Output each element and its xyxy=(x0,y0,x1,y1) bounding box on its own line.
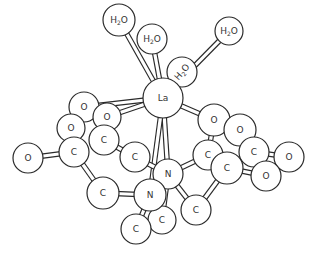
atom-label: C xyxy=(205,150,211,160)
atom-c-c1: C xyxy=(89,125,119,155)
atom-label: C xyxy=(101,135,107,145)
atom-label: C xyxy=(133,224,139,234)
atom-label: C xyxy=(193,205,199,215)
atom-label: C xyxy=(132,152,138,162)
atom-label: La xyxy=(158,93,169,103)
atom-label: C xyxy=(251,147,257,157)
atom-label: C xyxy=(71,147,77,157)
atom-label: C xyxy=(224,163,230,173)
atom-h2o-w3: H2O xyxy=(215,17,243,45)
atom-label: O xyxy=(210,115,217,125)
atom-label: O xyxy=(24,153,31,163)
atom-c-c2: C xyxy=(59,137,89,167)
atom-h2o-w2: H2O xyxy=(137,24,167,54)
atom-h2o-w1: H2O xyxy=(103,4,135,36)
atom-c-c3: C xyxy=(120,142,150,172)
atom-c-c8: C xyxy=(181,195,211,225)
atom-label: N xyxy=(165,169,172,179)
atom-label: O xyxy=(80,102,87,112)
atom-label: N xyxy=(147,190,154,200)
atom-label: O xyxy=(103,112,110,122)
atom-o-o8: O xyxy=(251,161,281,191)
atom-label: C xyxy=(159,215,165,225)
atom-n-n2: N xyxy=(134,179,166,211)
atom-label: C xyxy=(100,188,106,198)
atom-c-c4: C xyxy=(87,177,119,209)
atom-label: O xyxy=(236,125,243,135)
atom-o-o4: O xyxy=(13,143,43,173)
atom-label: O xyxy=(285,152,292,162)
atom-label: O xyxy=(67,123,74,133)
atom-la-la: La xyxy=(143,78,183,118)
atom-c-c10: C xyxy=(121,214,151,244)
atom-label: O xyxy=(262,171,269,181)
atom-c-c7: C xyxy=(211,152,243,184)
lanthanum-complex-diagram: H2OH2OH2OH2OOOOCCOCCOOCOCCONCCNCLa xyxy=(0,0,315,256)
